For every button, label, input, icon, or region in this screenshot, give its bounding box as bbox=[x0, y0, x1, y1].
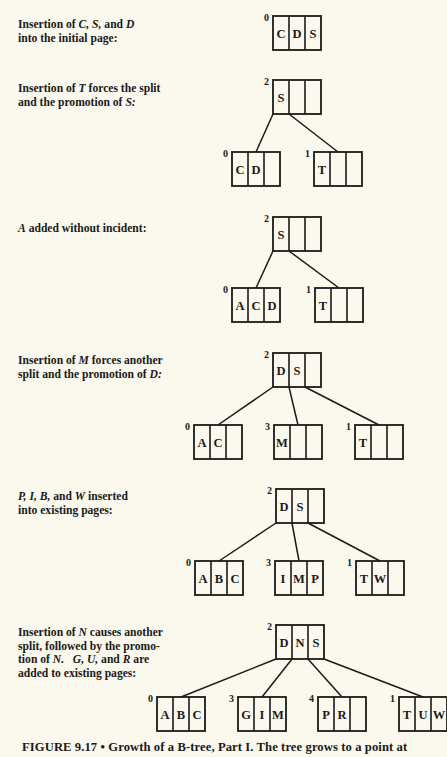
tree-page: 0CD bbox=[223, 148, 280, 186]
key-cell: A bbox=[235, 299, 244, 313]
tree-page: 1TW bbox=[347, 557, 404, 595]
key-cell: T bbox=[318, 163, 327, 177]
key-cell: S bbox=[278, 228, 285, 242]
tree-edge bbox=[289, 387, 298, 425]
key-cell: D bbox=[292, 27, 301, 41]
tree-edge bbox=[324, 659, 423, 697]
tree-page: 2DNS bbox=[267, 621, 324, 659]
key-cell: T bbox=[360, 572, 369, 586]
page-number-label: 3 bbox=[266, 557, 271, 568]
tree-edge bbox=[305, 387, 379, 425]
tree-edge bbox=[289, 114, 338, 152]
tree-edge bbox=[308, 523, 380, 561]
page-number-label: 0 bbox=[223, 148, 228, 159]
page-number-label: 1 bbox=[390, 693, 395, 704]
page-number-label: 3 bbox=[229, 693, 234, 704]
key-cell: D bbox=[267, 299, 276, 313]
page-number-label: 2 bbox=[264, 349, 269, 360]
page-number-label: 0 bbox=[223, 284, 228, 295]
key-cell: S bbox=[313, 636, 320, 650]
key-cell: D bbox=[279, 500, 288, 514]
key-cell: T bbox=[359, 436, 368, 450]
tree-stage: 2S0CD1T bbox=[223, 76, 362, 186]
page-number-label: 2 bbox=[267, 485, 272, 496]
tree-page: 1T bbox=[305, 148, 362, 186]
key-cell: A bbox=[198, 572, 207, 586]
tree-page: 0ABC bbox=[148, 693, 205, 731]
tree-page: 2DS bbox=[267, 485, 324, 523]
key-cell: U bbox=[418, 708, 427, 722]
key-cell: W bbox=[374, 572, 387, 586]
key-cell: C bbox=[192, 708, 201, 722]
page-number-label: 1 bbox=[347, 557, 352, 568]
key-cell: D bbox=[279, 636, 288, 650]
page-number-label: 2 bbox=[267, 621, 272, 632]
key-cell: I bbox=[281, 572, 286, 586]
key-cell: N bbox=[295, 636, 304, 650]
page-number-label: 4 bbox=[309, 693, 314, 704]
tree-edge bbox=[218, 387, 273, 425]
b-tree-diagram: 0CDS2S0CD1T2S0ACD1T2DS0AC3M1T2DS0ABC3IMP… bbox=[0, 0, 447, 757]
page-number-label: 2 bbox=[264, 213, 269, 224]
key-cell: G bbox=[241, 708, 251, 722]
tree-stage: 2DS0AC3M1T bbox=[185, 349, 403, 459]
tree-page: 0CDS bbox=[264, 12, 321, 50]
page-number-label: 0 bbox=[148, 693, 153, 704]
page-number-label: 2 bbox=[264, 76, 269, 87]
key-cell: P bbox=[311, 572, 319, 586]
tree-edge bbox=[256, 114, 273, 152]
key-cell: A bbox=[197, 436, 206, 450]
tree-edge bbox=[219, 523, 276, 561]
tree-page: 1T bbox=[306, 284, 363, 322]
key-cell: W bbox=[433, 708, 446, 722]
tree-edge bbox=[262, 659, 292, 697]
figure-caption: FIGURE 9.17 • Growth of a B-tree, Part I… bbox=[22, 740, 407, 755]
key-cell: D bbox=[276, 364, 285, 378]
tree-page: 1TUW bbox=[390, 693, 447, 731]
key-cell: C bbox=[213, 436, 222, 450]
key-cell: A bbox=[160, 708, 169, 722]
tree-stage: 2DS0ABC3IMP1TW bbox=[186, 485, 404, 595]
tree-edge bbox=[256, 251, 273, 288]
tree-stage: 2DNS0ABC3GIM4PR1TUW bbox=[148, 621, 447, 731]
key-cell: T bbox=[319, 299, 328, 313]
page-number-label: 1 bbox=[346, 421, 351, 432]
key-cell: I bbox=[260, 708, 265, 722]
page-number-label: 1 bbox=[305, 148, 310, 159]
tree-page: 3IMP bbox=[266, 557, 323, 595]
tree-stage: 2S0ACD1T bbox=[223, 213, 363, 322]
tree-stage: 0CDS bbox=[264, 12, 321, 50]
page-number-label: 0 bbox=[185, 421, 190, 432]
tree-page: 2DS bbox=[264, 349, 321, 387]
key-cell: C bbox=[235, 163, 244, 177]
key-cell: S bbox=[278, 91, 285, 105]
key-cell: P bbox=[322, 708, 330, 722]
key-cell: M bbox=[293, 572, 305, 586]
tree-page: 0ABC bbox=[186, 557, 243, 595]
tree-page: 3M bbox=[265, 421, 322, 459]
tree-page: 0AC bbox=[185, 421, 242, 459]
tree-page: 1T bbox=[346, 421, 403, 459]
page-number-label: 3 bbox=[265, 421, 270, 432]
key-cell: S bbox=[310, 27, 317, 41]
key-cell: M bbox=[276, 436, 288, 450]
key-cell: M bbox=[272, 708, 284, 722]
key-cell: S bbox=[294, 364, 301, 378]
key-cell: S bbox=[297, 500, 304, 514]
key-cell: D bbox=[251, 163, 260, 177]
tree-edge bbox=[181, 659, 276, 697]
page-number-label: 0 bbox=[186, 557, 191, 568]
key-cell: C bbox=[230, 572, 239, 586]
page-number-label: 1 bbox=[306, 284, 311, 295]
key-cell: B bbox=[215, 572, 223, 586]
tree-page: 2S bbox=[264, 76, 321, 114]
key-cell: C bbox=[276, 27, 285, 41]
page-number-label: 0 bbox=[264, 12, 269, 23]
key-cell: B bbox=[177, 708, 185, 722]
key-cell: R bbox=[337, 708, 347, 722]
key-cell: C bbox=[251, 299, 260, 313]
tree-page: 2S bbox=[264, 213, 321, 251]
tree-page: 3GIM bbox=[229, 693, 286, 731]
tree-edge bbox=[289, 251, 339, 288]
key-cell: T bbox=[403, 708, 412, 722]
